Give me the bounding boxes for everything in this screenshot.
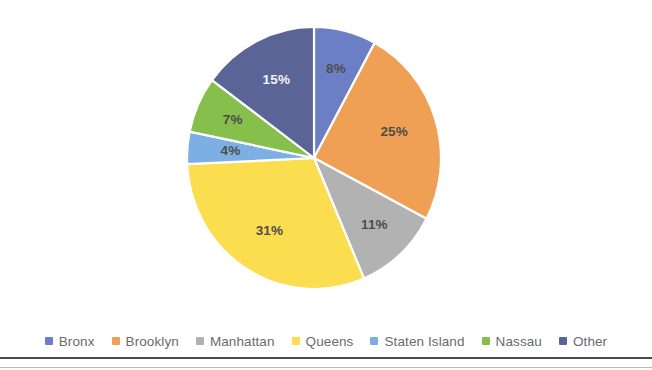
legend-swatch-icon-other	[559, 337, 567, 345]
legend-item-manhattan[interactable]: Manhattan	[196, 334, 275, 349]
legend-swatch-icon-brooklyn	[112, 337, 120, 345]
pie-slice-label-brooklyn: 25%	[380, 124, 408, 139]
legend-swatch-icon-bronx	[45, 337, 53, 345]
legend-item-bronx[interactable]: Bronx	[45, 334, 95, 349]
legend-label-queens: Queens	[306, 334, 354, 349]
pie-slice-label-staten-island: 4%	[220, 143, 240, 158]
legend-label-other: Other	[573, 334, 607, 349]
pie-slice-label-queens: 31%	[256, 223, 284, 238]
pie-slice-label-other: 15%	[262, 72, 290, 87]
pie-slice-group	[187, 27, 441, 289]
legend-item-other[interactable]: Other	[559, 334, 607, 349]
legend-item-queens[interactable]: Queens	[292, 334, 354, 349]
pie-slice-label-manhattan: 11%	[361, 217, 388, 232]
legend-label-nassau: Nassau	[496, 334, 542, 349]
legend-label-brooklyn: Brooklyn	[126, 334, 179, 349]
page-rule-primary	[0, 357, 652, 359]
legend-item-staten-island[interactable]: Staten Island	[370, 334, 464, 349]
legend-item-brooklyn[interactable]: Brooklyn	[112, 334, 179, 349]
pie-slice-label-nassau: 7%	[223, 112, 243, 127]
legend-label-manhattan: Manhattan	[210, 334, 275, 349]
legend-swatch-icon-staten-island	[370, 337, 378, 345]
legend-swatch-icon-nassau	[482, 337, 490, 345]
legend-swatch-icon-queens	[292, 337, 300, 345]
legend-item-nassau[interactable]: Nassau	[482, 334, 542, 349]
page-rule-secondary	[0, 367, 652, 368]
legend-label-staten-island: Staten Island	[384, 334, 464, 349]
legend-label-bronx: Bronx	[59, 334, 95, 349]
pie-plot-area: 8%25%11%31%4%7%15%	[186, 27, 442, 289]
chart-legend: BronxBrooklynManhattanQueensStaten Islan…	[0, 330, 652, 352]
pie-slice-label-bronx: 8%	[326, 61, 346, 76]
legend-swatch-icon-manhattan	[196, 337, 204, 345]
pie-chart-figure: 8%25%11%31%4%7%15%	[0, 0, 652, 318]
pie-svg: 8%25%11%31%4%7%15%	[186, 27, 442, 289]
